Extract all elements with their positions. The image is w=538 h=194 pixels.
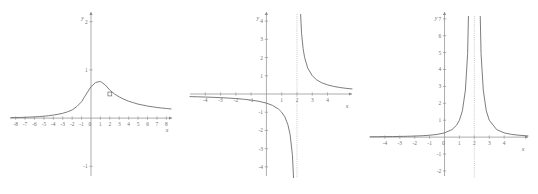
x-tick-label: 3: [118, 121, 121, 127]
x-tick-label: 4: [127, 121, 130, 127]
x-tick-label: -4: [383, 140, 388, 146]
x-tick-label: -2: [70, 121, 75, 127]
y-tick-label: -2: [437, 168, 442, 174]
y-tick-label: -1: [259, 109, 264, 115]
data-curve: [297, 0, 352, 89]
x-tick-label: -3: [398, 140, 403, 146]
y-tick-label: -3: [259, 146, 264, 152]
data-curve: [475, 0, 528, 136]
y-tick-label: -1: [83, 163, 88, 169]
figure-row: -8-7-6-5-4-3-2-1012345678-112xy -4-3-2-1…: [0, 0, 538, 194]
plot-panel-1: -8-7-6-5-4-3-2-1012345678-112xy: [0, 0, 180, 194]
x-tick-label: 5: [137, 121, 140, 127]
x-tick-label: -2: [234, 97, 239, 103]
open-point-marker: [108, 92, 112, 96]
y-axis-label: y: [256, 15, 260, 21]
x-tick-label: -5: [42, 121, 47, 127]
y-tick-label: 5: [438, 50, 441, 56]
x-tick-label: -2: [412, 140, 417, 146]
curve-group: [370, 0, 528, 137]
y-tick-label: 6: [438, 33, 441, 39]
x-axis-label: x: [521, 146, 525, 152]
x-tick-label: 0: [88, 121, 91, 127]
y-tick-label: 4: [438, 66, 441, 72]
plot-1-canvas: -8-7-6-5-4-3-2-1012345678-112xy: [0, 0, 180, 194]
y-tick-label: 1: [85, 67, 88, 73]
y-tick-label: 7: [438, 16, 441, 22]
x-tick-label: -6: [32, 121, 37, 127]
x-axis-label: x: [345, 103, 349, 109]
y-tick-label: 3: [260, 36, 263, 42]
y-tick-label: 4: [260, 18, 263, 24]
x-tick-label: 0: [442, 140, 445, 146]
y-tick-label: 2: [85, 19, 88, 25]
y-axis-label: y: [80, 15, 84, 21]
x-tick-label: -1: [427, 140, 432, 146]
x-tick-label: -3: [60, 121, 65, 127]
plot-2-canvas: -4-3-2-11234-4-3-2-11234xy: [180, 0, 360, 194]
x-tick-label: 1: [280, 97, 283, 103]
plot-panel-3: -4-3-2-101234-2-11234567xy: [360, 0, 538, 194]
x-axis-arrow-icon: [349, 92, 352, 95]
x-tick-label: 3: [488, 140, 491, 146]
x-tick-label: 7: [156, 121, 159, 127]
x-tick-label: 1: [99, 121, 102, 127]
y-axis-arrow-icon: [89, 12, 92, 15]
y-tick-label: -1: [437, 151, 442, 157]
y-tick-label: 2: [260, 55, 263, 61]
y-tick-label: 2: [438, 100, 441, 106]
y-tick-label: 1: [260, 73, 263, 79]
y-axis-arrow-icon: [265, 12, 268, 15]
x-tick-label: 2: [108, 121, 111, 127]
data-curve: [370, 0, 474, 137]
x-tick-label: 3: [311, 97, 314, 103]
y-tick-label: 1: [438, 117, 441, 123]
x-tick-label: -1: [79, 121, 84, 127]
x-tick-label: -7: [23, 121, 28, 127]
plot-panel-2: -4-3-2-11234-4-3-2-11234xy: [180, 0, 360, 194]
data-curve: [190, 97, 297, 194]
x-tick-label: -4: [51, 121, 56, 127]
y-tick-label: -2: [259, 127, 264, 133]
y-axis-label: y: [434, 15, 438, 21]
x-tick-label: 2: [296, 97, 299, 103]
y-tick-label: -4: [259, 164, 264, 170]
plot-3-canvas: -4-3-2-101234-2-11234567xy: [360, 0, 538, 194]
x-axis-arrow-icon: [169, 117, 172, 120]
x-axis-label: x: [165, 127, 169, 133]
x-tick-label: 6: [146, 121, 149, 127]
x-tick-label: 1: [458, 140, 461, 146]
y-tick-label: 3: [438, 83, 441, 89]
x-tick-label: 4: [326, 97, 329, 103]
x-tick-label: 4: [503, 140, 506, 146]
x-tick-label: -8: [13, 121, 18, 127]
y-axis-arrow-icon: [443, 12, 446, 15]
